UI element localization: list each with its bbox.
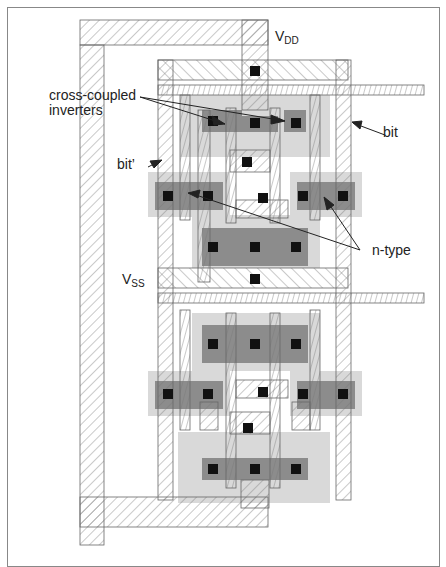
- cross-coupled-label: cross-coupled inverters: [49, 88, 136, 118]
- bit-label: bit: [383, 125, 398, 140]
- vdd-label: VDD: [275, 29, 299, 48]
- vss-label: VSS: [122, 272, 145, 291]
- n-type-label: n-type: [372, 243, 411, 258]
- bit-bar-label: bit’: [117, 157, 135, 172]
